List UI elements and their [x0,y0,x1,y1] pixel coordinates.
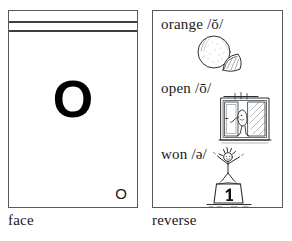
rule-line-top [9,21,137,23]
caption-reverse: reverse [152,212,197,229]
entry-open: open /ō/ [153,79,282,147]
rule-line-bottom [9,30,137,32]
big-letter-o: O [9,73,137,125]
winner-on-podium-icon [201,146,257,208]
entry-won: won /ə/ [153,145,282,209]
orange-fruit-with-wedge-icon [193,32,249,76]
caption-face: face [8,212,34,229]
face-card[interactable]: O O [8,10,138,208]
entry-orange-label: orange /ŏ/ [161,17,223,33]
corner-letter-o: O [115,186,127,201]
entry-orange: orange /ŏ/ [153,15,282,81]
reverse-card[interactable]: orange /ŏ/ [152,10,283,208]
figure-title: Phonics flashcard for the letter O, face… [0,21,1,22]
flashcard-figure: Phonics flashcard for the letter O, face… [0,0,292,241]
entry-open-label: open /ō/ [161,81,211,97]
person-opening-window-icon [215,91,273,145]
